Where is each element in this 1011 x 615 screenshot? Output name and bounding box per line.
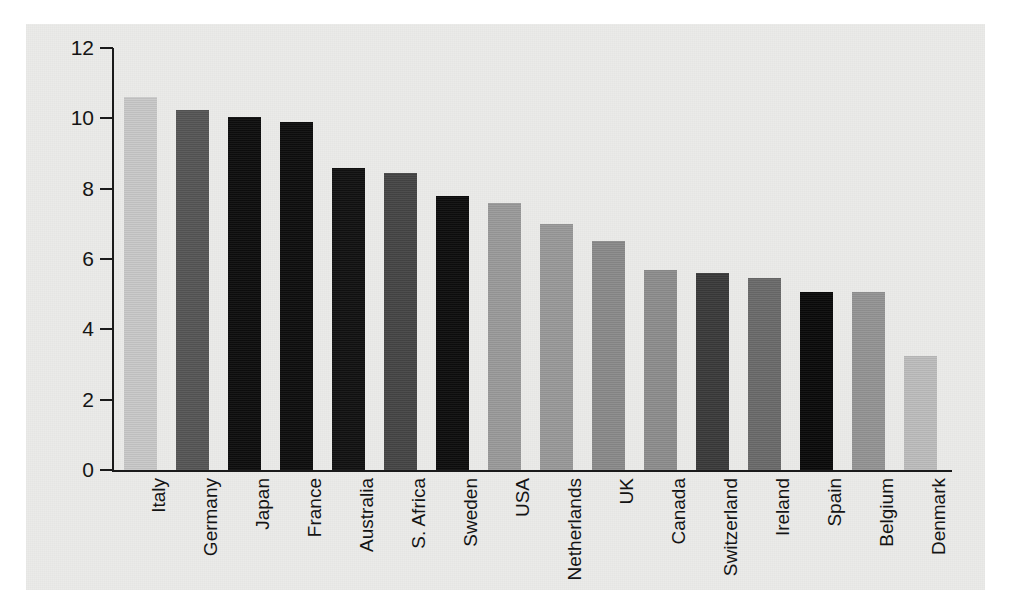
bar <box>228 117 261 470</box>
bar <box>332 168 365 470</box>
bar <box>800 292 833 470</box>
y-axis-tick-label: 2 <box>36 389 94 410</box>
x-axis-tick-label: Belgium <box>877 478 896 547</box>
bar <box>124 97 157 470</box>
x-axis-tick-label: USA <box>513 478 532 517</box>
x-axis-tick-label: Ireland <box>773 478 792 536</box>
bar <box>644 270 677 470</box>
x-axis-tick-labels: ItalyGermanyJapanFranceAustraliaS. Afric… <box>112 474 970 612</box>
bar <box>280 122 313 470</box>
x-axis-tick-label: France <box>305 478 324 537</box>
bar <box>488 203 521 470</box>
bar <box>540 224 573 470</box>
y-axis-tick-label: 10 <box>36 107 94 128</box>
x-axis-tick-label: Japan <box>253 478 272 530</box>
bar <box>176 110 209 470</box>
y-axis-tick-label: 12 <box>36 37 94 58</box>
x-axis-tick-label: S. Africa <box>409 478 428 549</box>
x-axis-tick-label: Italy <box>149 478 168 513</box>
bar <box>852 292 885 470</box>
y-axis-tick-label: 0 <box>36 459 94 480</box>
bar <box>436 196 469 470</box>
x-axis-tick-label: Spain <box>825 478 844 527</box>
bar-chart-figure: 024681012 ItalyGermanyJapanFranceAustral… <box>0 0 1011 615</box>
x-axis-tick-label: Denmark <box>929 478 948 555</box>
y-axis-tick-label: 4 <box>36 318 94 339</box>
bar <box>592 241 625 470</box>
x-axis-tick-label: Switzerland <box>721 478 740 576</box>
bar <box>696 273 729 470</box>
x-axis-tick-label: Sweden <box>461 478 480 547</box>
x-axis-tick-label: Australia <box>357 478 376 552</box>
x-axis-tick-label: Germany <box>201 478 220 556</box>
x-axis-tick-label: UK <box>617 478 636 504</box>
y-axis-tick-label: 6 <box>36 248 94 269</box>
bar <box>384 173 417 470</box>
x-axis-tick-label: Netherlands <box>565 478 584 580</box>
bar <box>904 356 937 470</box>
x-axis-line <box>112 470 952 472</box>
bar-series <box>112 48 970 470</box>
bar <box>748 278 781 470</box>
y-axis-tick-label: 8 <box>36 178 94 199</box>
x-axis-tick-label: Canada <box>669 478 688 545</box>
